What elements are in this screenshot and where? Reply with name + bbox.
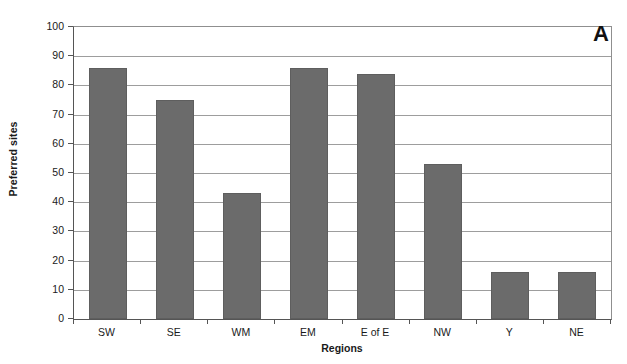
bar xyxy=(290,68,328,319)
bar xyxy=(357,74,395,319)
y-tick-label: 90 xyxy=(20,50,64,60)
x-tick-label: WM xyxy=(231,325,250,339)
gridline xyxy=(74,261,611,262)
gridline xyxy=(74,290,611,291)
bar xyxy=(491,272,529,319)
x-axis-labels: SWSEWMEME of ENWYNE xyxy=(73,325,611,341)
y-tick-label: 60 xyxy=(20,138,64,148)
plot-area xyxy=(73,26,612,320)
y-axis-ticks: 0102030405060708090100 xyxy=(0,26,73,318)
x-tick-mark xyxy=(207,319,208,324)
x-tick-mark xyxy=(543,319,544,324)
x-tick-mark xyxy=(476,319,477,324)
gridline xyxy=(74,115,611,116)
bar xyxy=(89,68,127,319)
x-tick-label: Y xyxy=(506,325,513,339)
gridline xyxy=(74,173,611,174)
y-tick-label: 20 xyxy=(20,255,64,265)
gridline xyxy=(74,231,611,232)
bar xyxy=(424,164,462,319)
gridline xyxy=(74,56,611,57)
y-tick-label: 70 xyxy=(20,109,64,119)
bar-chart: Preferred sites 0102030405060708090100 S… xyxy=(0,0,627,364)
x-tick-label: EM xyxy=(300,325,316,339)
gridline xyxy=(74,144,611,145)
x-tick-mark xyxy=(274,319,275,324)
y-tick-label: 30 xyxy=(20,225,64,235)
x-tick-label: NW xyxy=(433,325,451,339)
bar xyxy=(558,272,596,319)
y-tick-label: 10 xyxy=(20,284,64,294)
panel-label: A xyxy=(593,22,609,46)
gridline xyxy=(74,202,611,203)
x-tick-mark xyxy=(610,319,611,324)
y-tick-label: 50 xyxy=(20,167,64,177)
x-tick-mark xyxy=(342,319,343,324)
x-tick-label: E of E xyxy=(361,325,390,339)
gridline xyxy=(74,85,611,86)
x-tick-label: NE xyxy=(569,325,584,339)
x-tick-mark xyxy=(73,319,74,324)
bar xyxy=(223,193,261,319)
x-axis-title: Regions xyxy=(73,342,611,354)
x-tick-label: SE xyxy=(167,325,181,339)
y-tick-label: 0 xyxy=(20,313,64,323)
y-tick-label: 100 xyxy=(20,21,64,31)
x-tick-mark xyxy=(409,319,410,324)
x-tick-mark xyxy=(140,319,141,324)
y-tick-label: 80 xyxy=(20,79,64,89)
bar xyxy=(156,100,194,319)
y-tick-label: 40 xyxy=(20,196,64,206)
x-tick-label: SW xyxy=(98,325,115,339)
